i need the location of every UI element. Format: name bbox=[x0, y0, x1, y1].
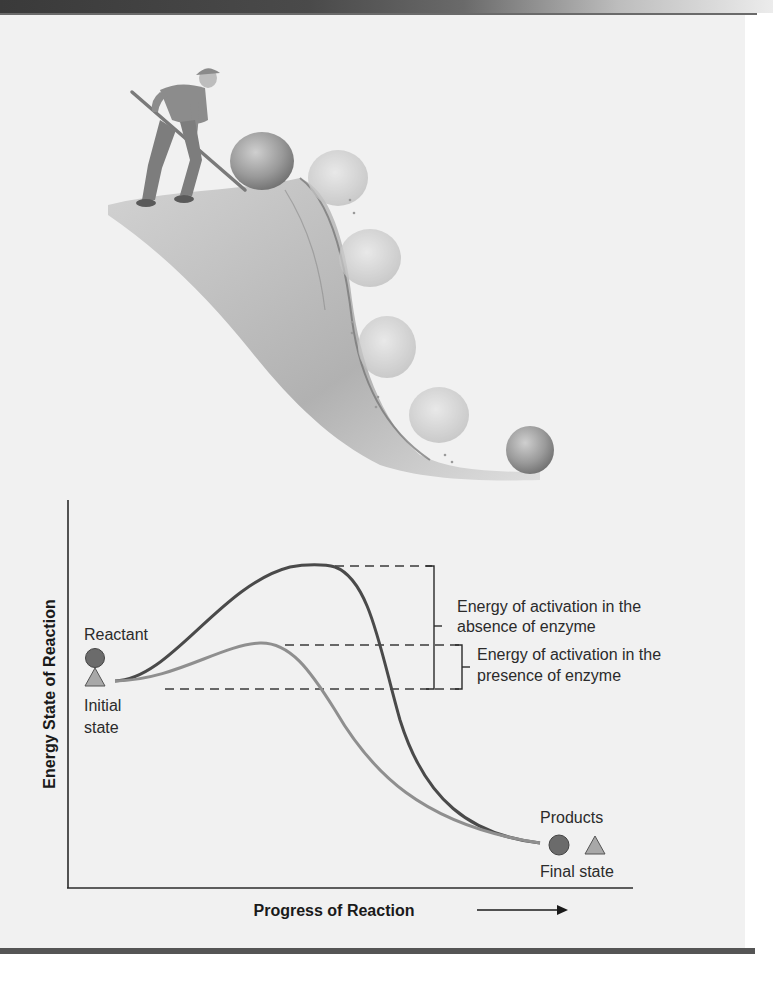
illustration bbox=[108, 68, 554, 480]
bracket-presence bbox=[455, 645, 462, 689]
energy-graph: Energy State of Reaction Progress of Rea… bbox=[41, 500, 661, 919]
annotation-absence-line1: Energy of activation in the bbox=[457, 598, 641, 615]
reactant-triangle-icon bbox=[85, 668, 105, 686]
final-state-label: Final state bbox=[540, 863, 614, 880]
annotation-absence-line2: absence of enzyme bbox=[457, 618, 596, 635]
initial-state-label-line1: Initial bbox=[84, 697, 121, 714]
x-axis-label: Progress of Reaction bbox=[254, 902, 415, 919]
boulder-at-top bbox=[230, 132, 294, 190]
man-with-pole bbox=[132, 68, 245, 207]
reference-dashes bbox=[165, 566, 462, 689]
boulder-at-bottom bbox=[506, 426, 554, 474]
bracket-absence bbox=[426, 566, 434, 689]
y-axis-label: Energy State of Reaction bbox=[41, 599, 58, 788]
reactant-label: Reactant bbox=[84, 626, 149, 643]
products-label: Products bbox=[540, 809, 603, 826]
hill-slope bbox=[108, 178, 540, 480]
initial-state-label-line2: state bbox=[84, 719, 119, 736]
annotation-presence-line2: presence of enzyme bbox=[477, 667, 621, 684]
product-circle-icon bbox=[549, 835, 569, 855]
product-triangle-icon bbox=[585, 836, 605, 854]
x-axis-direction-arrow-icon bbox=[477, 905, 568, 915]
reactant-circle-icon bbox=[86, 649, 105, 668]
figure-canvas: Energy State of Reaction Progress of Rea… bbox=[0, 0, 773, 995]
annotation-presence-line1: Energy of activation in the bbox=[477, 646, 661, 663]
